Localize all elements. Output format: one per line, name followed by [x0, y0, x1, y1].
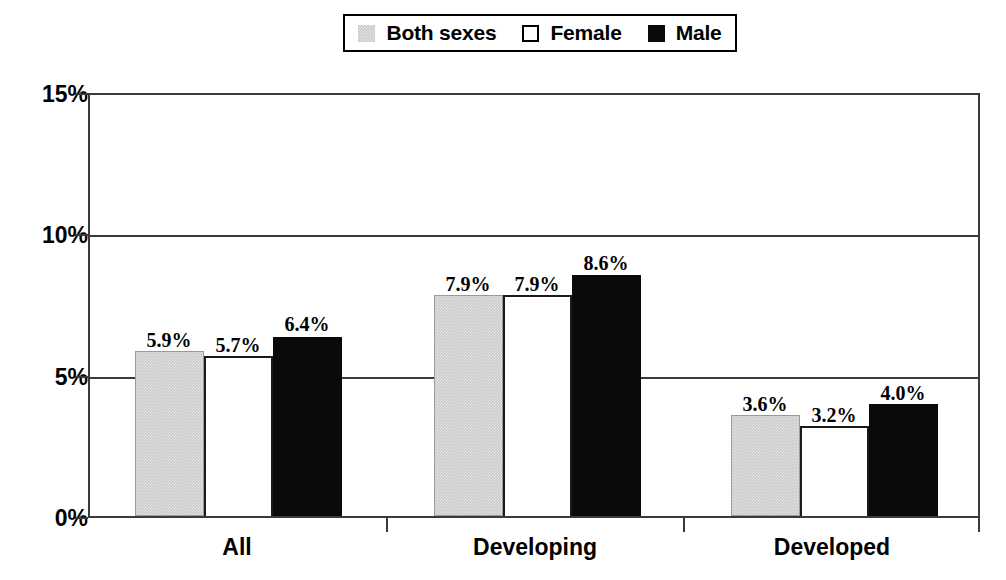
legend-swatch-black-icon [648, 25, 665, 42]
bar-developed-both-sexes[interactable] [731, 415, 800, 516]
bar-developing-both-sexes[interactable] [434, 295, 503, 516]
legend-swatch-grey-icon [358, 25, 375, 42]
legend-item-male[interactable]: Male [648, 16, 722, 50]
bar-all-female[interactable] [204, 356, 273, 516]
value-label-all-male: 6.4% [285, 313, 330, 336]
value-label-developing-both-sexes: 7.9% [446, 273, 491, 296]
value-label-developing-male: 8.6% [584, 252, 629, 275]
value-label-developed-female: 3.2% [812, 404, 857, 427]
x-tick-mark-1 [386, 518, 388, 532]
value-label-developed-both-sexes: 3.6% [743, 393, 788, 416]
x-tick-mark-3 [978, 518, 980, 532]
y-tick-mark-15 [75, 93, 88, 95]
y-tick-mark-0 [75, 517, 88, 519]
bar-developed-male[interactable] [869, 404, 938, 516]
legend-item-female[interactable]: Female [522, 16, 621, 50]
value-label-all-both-sexes: 5.9% [147, 329, 192, 352]
y-axis: 15% 10% 5% 0% [0, 0, 88, 580]
x-tick-mark-2 [683, 518, 685, 532]
x-category-label-all: All [222, 534, 251, 561]
legend-label-female: Female [550, 21, 621, 45]
gridline-10 [90, 235, 978, 237]
bar-developing-female[interactable] [503, 295, 572, 516]
bar-developing-male[interactable] [572, 275, 641, 516]
bar-all-both-sexes[interactable] [135, 351, 204, 516]
bar-developed-female[interactable] [800, 426, 869, 516]
legend-item-both-sexes[interactable]: Both sexes [358, 16, 496, 50]
plot-area: 5.9% 5.7% 6.4% 7.9% 7.9% 8.6% 3.6% 3.2% … [88, 93, 980, 518]
y-tick-mark-10 [75, 234, 88, 236]
bar-all-male[interactable] [273, 337, 342, 516]
chart-legend: Both sexes Female Male [343, 14, 737, 52]
x-category-label-developing: Developing [473, 534, 597, 561]
legend-label-both-sexes: Both sexes [386, 21, 496, 45]
x-category-label-developed: Developed [774, 534, 890, 561]
bar-chart: Both sexes Female Male 15% 10% 5% 0% [0, 0, 1006, 580]
value-label-developing-female: 7.9% [515, 273, 560, 296]
value-label-developed-male: 4.0% [881, 382, 926, 405]
legend-swatch-white-icon [522, 25, 539, 42]
legend-label-male: Male [676, 21, 722, 45]
y-tick-mark-5 [75, 376, 88, 378]
value-label-all-female: 5.7% [216, 334, 261, 357]
